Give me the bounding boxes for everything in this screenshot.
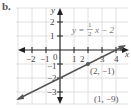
equation-label-rest: x − 2	[94, 25, 115, 35]
y-tick-2: 2	[50, 17, 55, 27]
x-tick-1: 1	[72, 54, 77, 64]
y-axis-up-arrow	[57, 8, 63, 15]
x-axis-left-arrow	[18, 47, 25, 53]
point-label: (2, −1)	[90, 66, 115, 76]
x-tick-neg2: −2	[26, 54, 36, 64]
equation-label-prefix: y =	[71, 25, 84, 35]
extra-point-label: (1, −9)	[94, 94, 119, 104]
y-tick-1: 1	[50, 31, 55, 41]
coordinate-plane: −2 −1 0 1 2 3 4 x 2 1 −1 −2 −3 y y = 1 2…	[0, 0, 131, 108]
x-axis-label: x	[124, 49, 129, 59]
equation-fraction-numerator: 1	[88, 21, 92, 29]
y-axis-label: y	[50, 5, 55, 15]
x-tick-4: 4	[114, 54, 119, 64]
line-arrow-left	[16, 94, 24, 100]
equation-fraction-denominator: 2	[88, 30, 92, 38]
y-tick-neg3: −3	[47, 87, 57, 97]
y-tick-neg1: −1	[47, 61, 57, 71]
y-axis-down-arrow	[57, 97, 63, 104]
x-tick-2: 2	[80, 54, 85, 64]
